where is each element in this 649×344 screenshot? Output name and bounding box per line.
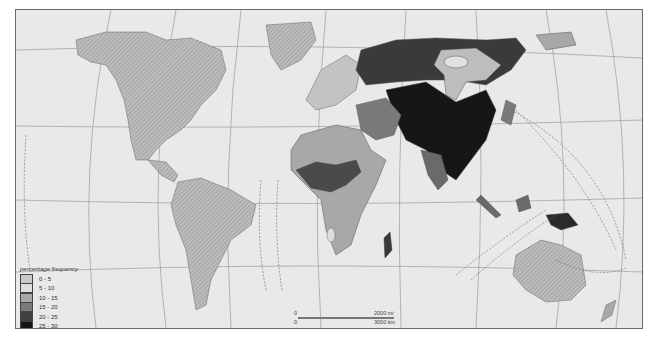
scale-km-label: 3000 km: [374, 319, 395, 325]
legend-item: 20 - 25: [20, 312, 100, 322]
world-map: [16, 10, 642, 328]
australia: [513, 240, 586, 302]
legend-swatch: [20, 274, 33, 284]
legend-label: 25 - 30: [39, 323, 58, 329]
legend-item: 15 - 20: [20, 303, 100, 313]
legend-item: 0 - 5: [20, 274, 100, 284]
legend-item: 10 - 15: [20, 293, 100, 303]
kamchatka: [536, 32, 576, 50]
madagascar: [384, 232, 392, 258]
north-america: [76, 32, 226, 160]
sumatra: [476, 195, 501, 218]
map-frame: percentage frequency 0 - 5 5 - 10 10 - 1…: [15, 9, 643, 329]
legend-label: 15 - 20: [39, 304, 58, 310]
new-zealand: [601, 300, 616, 322]
legend: percentage frequency 0 - 5 5 - 10 10 - 1…: [20, 266, 100, 329]
legend-label: 10 - 15: [39, 295, 58, 301]
legend-label: 20 - 25: [39, 314, 58, 320]
central-america: [148, 160, 178, 182]
legend-swatch: [20, 312, 33, 322]
greenland: [266, 22, 316, 70]
africa: [291, 125, 386, 255]
legend-item: 5 - 10: [20, 284, 100, 294]
scale-zero-mi: 0: [294, 310, 297, 316]
legend-item: 25 - 30: [20, 322, 100, 330]
scale-mi-label: 2000 mi: [374, 310, 394, 316]
legend-swatch: [20, 321, 33, 329]
legend-swatch: [20, 293, 33, 303]
legend-label: 5 - 10: [39, 285, 54, 291]
legend-swatch: [20, 283, 33, 293]
scale-bar: 0 2000 mi 0 3000 km: [292, 310, 402, 326]
japan: [501, 100, 516, 125]
south-america: [171, 178, 256, 310]
legend-title: percentage frequency: [20, 266, 100, 272]
new-guinea: [546, 213, 578, 230]
borneo: [516, 195, 531, 212]
scale-zero-km: 0: [294, 319, 297, 325]
europe: [306, 55, 361, 110]
legend-label: 0 - 5: [39, 276, 51, 282]
legend-swatch: [20, 302, 33, 312]
